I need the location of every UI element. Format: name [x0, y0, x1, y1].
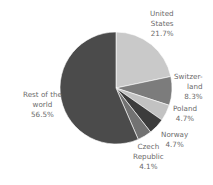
label-line: Norway [161, 130, 188, 140]
label-value: 56.5% [23, 110, 62, 120]
label-value: 21.7% [150, 29, 174, 39]
label-line: Republic [133, 152, 164, 162]
label-value: 4.7% [173, 114, 197, 124]
label-line: Switzer- [174, 72, 203, 82]
label-value: 4.7% [161, 140, 188, 150]
label-czech-republic: Czech Republic 4.1% [133, 142, 164, 172]
label-united-states: United States 21.7% [150, 9, 174, 39]
label-poland: Poland 4.7% [173, 104, 197, 124]
label-line: land [174, 82, 203, 92]
label-value: 8.3% [174, 92, 203, 102]
label-norway: Norway 4.7% [161, 130, 188, 150]
label-line: Poland [173, 104, 197, 114]
label-line: United [150, 9, 174, 19]
label-rest-of-world: Rest of the world 56.5% [23, 90, 62, 120]
label-value: 4.1% [133, 162, 164, 172]
label-line: Czech [133, 142, 164, 152]
label-line: States [150, 19, 174, 29]
label-line: world [23, 100, 62, 110]
label-switzerland: Switzer- land 8.3% [174, 72, 203, 102]
label-line: Rest of the [23, 90, 62, 100]
